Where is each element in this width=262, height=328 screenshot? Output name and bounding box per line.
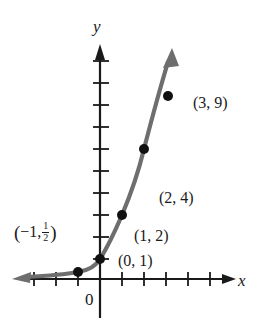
label-close-paren: ) (50, 223, 56, 242)
data-point-1 (117, 210, 127, 220)
exponential-function-graph: y x 0 (3, 9) (2, 4) (1, 2) (0, 1) ( −1, … (0, 0, 262, 328)
y-axis-label: y (93, 18, 101, 35)
data-point-2 (139, 144, 149, 154)
fraction-one-half: 1 2 (42, 221, 49, 243)
point-label-2-4: (2, 4) (159, 190, 194, 206)
graph-canvas (0, 0, 262, 328)
y-axis-arrowhead (95, 44, 105, 60)
point-label-3-9: (3, 9) (193, 95, 228, 111)
data-point-neg1 (73, 267, 83, 277)
label-neg-one-text: −1, (20, 224, 41, 240)
curve-arrowhead-left (12, 272, 31, 283)
point-label-neg1-half: ( −1, 1 2 ) (14, 221, 57, 243)
fraction-numerator: 1 (42, 221, 49, 232)
origin-label: 0 (85, 291, 94, 308)
data-point-3 (163, 91, 173, 101)
data-point-0 (95, 254, 105, 264)
exponential-curve (26, 62, 168, 277)
point-label-0-1: (0, 1) (118, 253, 153, 269)
fraction-denominator: 2 (42, 232, 49, 244)
point-label-1-2: (1, 2) (134, 228, 169, 244)
x-axis-label: x (238, 272, 246, 289)
curve-arrowhead-top (163, 48, 179, 68)
x-axis-arrowhead (222, 274, 236, 284)
